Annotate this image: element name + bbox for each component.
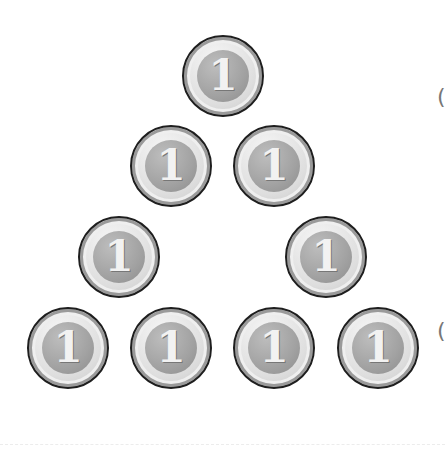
coin-face: 1 [248, 140, 300, 192]
coin: 1 [233, 125, 315, 207]
coin-face: 1 [145, 140, 197, 192]
coin: 1 [182, 35, 264, 117]
coin-face: 1 [197, 50, 249, 102]
divider [0, 444, 445, 445]
coin-face: 1 [145, 322, 197, 374]
coin-value: 1 [93, 231, 145, 283]
coin: 1 [130, 125, 212, 207]
coin-face: 1 [248, 322, 300, 374]
coin-value: 1 [352, 322, 404, 374]
coin-value: 1 [248, 322, 300, 374]
coin-face: 1 [300, 231, 352, 283]
coin: 1 [233, 307, 315, 389]
coin-value: 1 [145, 322, 197, 374]
coin: 1 [78, 216, 160, 298]
coin-face: 1 [93, 231, 145, 283]
coin: 1 [27, 307, 109, 389]
coin-face: 1 [42, 322, 94, 374]
coin-value: 1 [197, 50, 249, 102]
bracket-bottom: ( [437, 318, 445, 343]
coin: 1 [130, 307, 212, 389]
coin-value: 1 [42, 322, 94, 374]
coin-value: 1 [300, 231, 352, 283]
coin-value: 1 [248, 140, 300, 192]
coin: 1 [285, 216, 367, 298]
bracket-top: ( [437, 84, 445, 109]
coin-face: 1 [352, 322, 404, 374]
coin: 1 [337, 307, 419, 389]
coin-value: 1 [145, 140, 197, 192]
